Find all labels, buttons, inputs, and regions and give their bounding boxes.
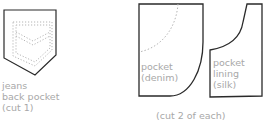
- back-pocket-piece: [4, 10, 56, 75]
- back-pocket-label: jeans back pocket (cut 1): [2, 80, 59, 113]
- label-line: jeans: [2, 80, 59, 91]
- label-line: pocket: [213, 57, 245, 68]
- label-line: (cut 1): [2, 102, 59, 113]
- label-line: (denim): [141, 72, 178, 83]
- label-line: pocket: [141, 61, 178, 72]
- pocket-lining-label: pocket lining (silk): [213, 57, 245, 90]
- cut-instruction-footnote: (cut 2 of each): [156, 110, 226, 121]
- label-line: back pocket: [2, 91, 59, 102]
- label-line: (silk): [213, 79, 245, 90]
- label-line: lining: [213, 68, 245, 79]
- pocket-denim-label: pocket (denim): [141, 61, 178, 83]
